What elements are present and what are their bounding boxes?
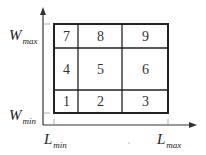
stray-dot bbox=[128, 142, 129, 143]
grid-cell-2: 2 bbox=[79, 91, 122, 113]
grid-cell-4: 4 bbox=[55, 49, 78, 90]
grid-cell-3: 3 bbox=[123, 91, 168, 113]
label-wmin-sub: min bbox=[23, 116, 37, 126]
label-lmax: Lmax bbox=[157, 132, 181, 150]
grid-cell-8: 8 bbox=[79, 25, 122, 48]
label-lmax-sub: max bbox=[166, 140, 181, 150]
label-lmin: Lmin bbox=[44, 132, 67, 150]
grid-cell-6: 6 bbox=[123, 49, 168, 90]
label-lmin-sub: min bbox=[53, 140, 67, 150]
y-axis-arrow-icon bbox=[40, 7, 46, 15]
label-wmax-sub: max bbox=[23, 36, 38, 46]
label-lmin-main: L bbox=[44, 131, 52, 147]
grid-cell-9: 9 bbox=[123, 25, 168, 48]
label-wmax-main: W bbox=[9, 27, 22, 43]
label-lmax-main: L bbox=[157, 131, 165, 147]
grid-cell-7: 7 bbox=[55, 25, 78, 48]
label-wmin: Wmin bbox=[9, 108, 36, 126]
x-axis-arrow-icon bbox=[189, 122, 197, 128]
grid-cell-1: 1 bbox=[55, 91, 78, 113]
grid-cell-5: 5 bbox=[79, 49, 122, 90]
label-wmax: Wmax bbox=[9, 28, 38, 46]
label-wmin-main: W bbox=[9, 107, 22, 123]
